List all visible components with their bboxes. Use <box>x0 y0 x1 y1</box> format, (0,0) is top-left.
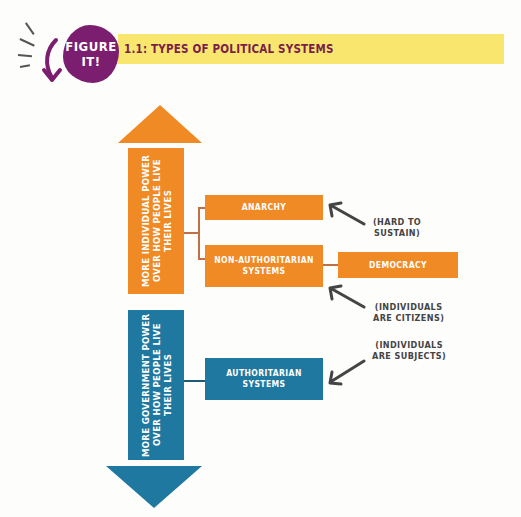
pointer-arrow-icon <box>326 357 366 387</box>
connector-line <box>322 264 338 266</box>
connector-line <box>198 207 200 259</box>
connector-line <box>198 207 205 209</box>
down-arrow-icon <box>104 460 204 510</box>
badge-line-2: IT! <box>63 54 119 69</box>
pointer-arrow-icon <box>326 283 366 313</box>
note-hard-to-sustain: (HARD TO SUSTAIN) <box>373 217 421 239</box>
connector-line <box>184 232 198 234</box>
note-subjects: (INDIVIDUALS ARE SUBJECTS) <box>372 340 446 362</box>
up-arrow-icon <box>115 105 205 147</box>
connector-line <box>184 380 206 382</box>
connector-line <box>198 258 205 260</box>
figure-title: 1.1: TYPES OF POLITICAL SYSTEMS <box>124 42 334 56</box>
individual-power-bar: MORE INDIVIDUAL POWER OVER HOW PEOPLE LI… <box>128 148 184 294</box>
badge-line-1: FIGURE <box>63 39 119 54</box>
pointer-arrow-icon <box>326 200 366 230</box>
figure-it-badge: FIGURE IT! <box>63 25 119 83</box>
note-citizens: (INDIVIDUALS ARE CITIZENS) <box>373 302 444 324</box>
non-authoritarian-box: NON-AUTHORITARIAN SYSTEMS <box>205 245 323 287</box>
democracy-box: DEMOCRACY <box>338 252 458 278</box>
authoritarian-box: AUTHORITARIAN SYSTEMS <box>205 358 323 400</box>
government-power-bar: MORE GOVERNMENT POWER OVER HOW PEOPLE LI… <box>128 310 184 460</box>
anarchy-box: ANARCHY <box>205 195 323 220</box>
